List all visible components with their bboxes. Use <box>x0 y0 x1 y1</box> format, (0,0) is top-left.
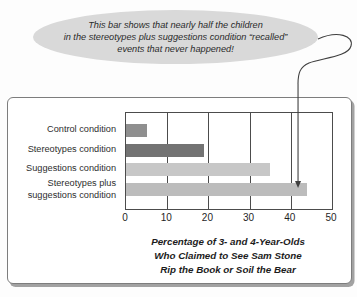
x-tick-40: 40 <box>284 212 295 223</box>
category-label-stereotypes-plus-suggestions: Stereotypes plus suggestions condition <box>4 178 116 201</box>
figure-box: Control condition Stereotypes condition … <box>7 97 352 284</box>
bar-suggestions <box>126 163 270 176</box>
caption-line-3: Rip the Book or Soil the Bear <box>113 263 343 277</box>
category-label-suggestions: Suggestions condition <box>26 163 116 175</box>
figure-page: This bar shows that nearly half the chil… <box>0 0 357 297</box>
caption-line-2: Who Claimed to See Sam Stone <box>113 249 343 263</box>
category-label-control: Control condition <box>47 124 116 136</box>
axis-caption: Percentage of 3- and 4-Year-Olds Who Cla… <box>113 235 343 277</box>
x-tick-30: 30 <box>243 212 254 223</box>
x-tick-50: 50 <box>325 212 336 223</box>
bar-stereotypes <box>126 144 204 157</box>
bar-stereotypes-plus-suggestions <box>126 183 307 196</box>
category-label-stereotypes: Stereotypes condition <box>28 144 116 156</box>
x-tick-20: 20 <box>202 212 213 223</box>
x-tick-0: 0 <box>122 212 128 223</box>
x-axis: 0 10 20 30 40 50 <box>125 212 331 225</box>
plot-area <box>125 112 333 210</box>
callout-text-line-3: events that never happened! <box>117 43 233 55</box>
caption-line-1: Percentage of 3- and 4-Year-Olds <box>113 235 343 249</box>
callout-text-line-1: This bar shows that nearly half the chil… <box>88 19 263 31</box>
callout-text-line-2: in the stereotypes plus suggestions cond… <box>64 31 288 43</box>
callout-bubble: This bar shows that nearly half the chil… <box>33 10 318 64</box>
x-tick-10: 10 <box>161 212 172 223</box>
bar-control <box>126 124 147 137</box>
